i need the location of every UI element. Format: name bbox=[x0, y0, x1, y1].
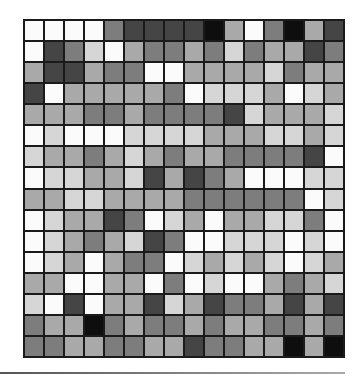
grid-cell bbox=[325, 126, 343, 145]
grid-cell bbox=[165, 190, 183, 209]
grid-cell bbox=[165, 168, 183, 187]
grid-cell bbox=[25, 42, 43, 61]
grid-cell bbox=[145, 21, 163, 40]
grid-cell bbox=[305, 126, 323, 145]
grid-cell bbox=[25, 253, 43, 272]
grid-cell bbox=[225, 295, 243, 314]
grid-cell bbox=[145, 190, 163, 209]
grid-cell bbox=[285, 295, 303, 314]
grid-cell bbox=[165, 126, 183, 145]
grid-cell bbox=[85, 84, 103, 103]
grid-cell bbox=[85, 168, 103, 187]
grid-cell bbox=[245, 190, 263, 209]
grid-cell bbox=[305, 253, 323, 272]
grid-cell bbox=[285, 147, 303, 166]
grid-cell bbox=[145, 253, 163, 272]
grid-cell bbox=[25, 21, 43, 40]
grid-cell bbox=[305, 63, 323, 82]
grid-cell bbox=[45, 274, 63, 293]
grid-cell bbox=[65, 42, 83, 61]
grid-cell bbox=[145, 232, 163, 251]
grid-cell bbox=[205, 232, 223, 251]
grid-cell bbox=[85, 63, 103, 82]
grid-cell bbox=[325, 42, 343, 61]
grid-cell bbox=[105, 168, 123, 187]
grid-cell bbox=[265, 21, 283, 40]
grid-cell bbox=[145, 42, 163, 61]
grid-cell bbox=[145, 63, 163, 82]
grid-cell bbox=[45, 63, 63, 82]
grid-cell bbox=[225, 42, 243, 61]
grid-cell bbox=[45, 190, 63, 209]
grid-cell bbox=[305, 337, 323, 356]
grid-cell bbox=[225, 105, 243, 124]
grid-cell bbox=[205, 168, 223, 187]
grid-cell bbox=[205, 42, 223, 61]
grid-cell bbox=[65, 63, 83, 82]
grid-cell bbox=[85, 126, 103, 145]
grid-cell bbox=[65, 232, 83, 251]
grid-cell bbox=[225, 316, 243, 335]
grid-cell bbox=[45, 168, 63, 187]
grid-cell bbox=[65, 105, 83, 124]
grid-cell bbox=[65, 21, 83, 40]
grid-cell bbox=[85, 105, 103, 124]
grid-cell bbox=[225, 147, 243, 166]
grid-cell bbox=[85, 232, 103, 251]
grid-cell bbox=[205, 190, 223, 209]
grid-cell bbox=[165, 21, 183, 40]
grid-cell bbox=[185, 337, 203, 356]
grid-cell bbox=[245, 147, 263, 166]
grid-cell bbox=[225, 84, 243, 103]
grid-cell bbox=[65, 316, 83, 335]
grid-cell bbox=[25, 211, 43, 230]
grid-cell bbox=[325, 147, 343, 166]
grid-cell bbox=[325, 253, 343, 272]
grid-cell bbox=[325, 337, 343, 356]
grid-cell bbox=[25, 63, 43, 82]
grid-cell bbox=[185, 63, 203, 82]
grid-cell bbox=[45, 337, 63, 356]
grid-cell bbox=[245, 84, 263, 103]
grid-cell bbox=[25, 337, 43, 356]
grid-cell bbox=[185, 232, 203, 251]
grid-cell bbox=[105, 21, 123, 40]
grid-cell bbox=[85, 316, 103, 335]
grid-cell bbox=[325, 274, 343, 293]
grid-cell bbox=[245, 126, 263, 145]
grid-cell bbox=[85, 190, 103, 209]
grid-cell bbox=[305, 295, 323, 314]
grid-cell bbox=[85, 295, 103, 314]
grid-cell bbox=[245, 105, 263, 124]
grid-cell bbox=[25, 105, 43, 124]
grid-cell bbox=[105, 147, 123, 166]
grid-cell bbox=[205, 105, 223, 124]
grid-cell bbox=[225, 190, 243, 209]
grid-cell bbox=[265, 232, 283, 251]
grid-cell bbox=[305, 190, 323, 209]
grid-cell bbox=[125, 211, 143, 230]
grid-cell bbox=[165, 84, 183, 103]
grid-cell bbox=[305, 168, 323, 187]
grid-cell bbox=[25, 147, 43, 166]
grid-cell bbox=[25, 84, 43, 103]
grid-cell bbox=[265, 211, 283, 230]
grid-cell bbox=[205, 316, 223, 335]
grid-cell bbox=[185, 21, 203, 40]
grid-cell bbox=[105, 337, 123, 356]
grid-cell bbox=[45, 211, 63, 230]
grid-cell bbox=[205, 147, 223, 166]
grid-cell bbox=[225, 21, 243, 40]
grid-cell bbox=[265, 316, 283, 335]
grid-cell bbox=[205, 253, 223, 272]
grid-cell bbox=[285, 21, 303, 40]
grid-cell bbox=[65, 295, 83, 314]
grid-cell bbox=[185, 168, 203, 187]
grid-cell bbox=[25, 126, 43, 145]
grid-cell bbox=[145, 337, 163, 356]
grid-cell bbox=[125, 253, 143, 272]
grid-cell bbox=[125, 316, 143, 335]
grid-cell bbox=[185, 253, 203, 272]
grid-cell bbox=[205, 84, 223, 103]
grid-cell bbox=[45, 42, 63, 61]
